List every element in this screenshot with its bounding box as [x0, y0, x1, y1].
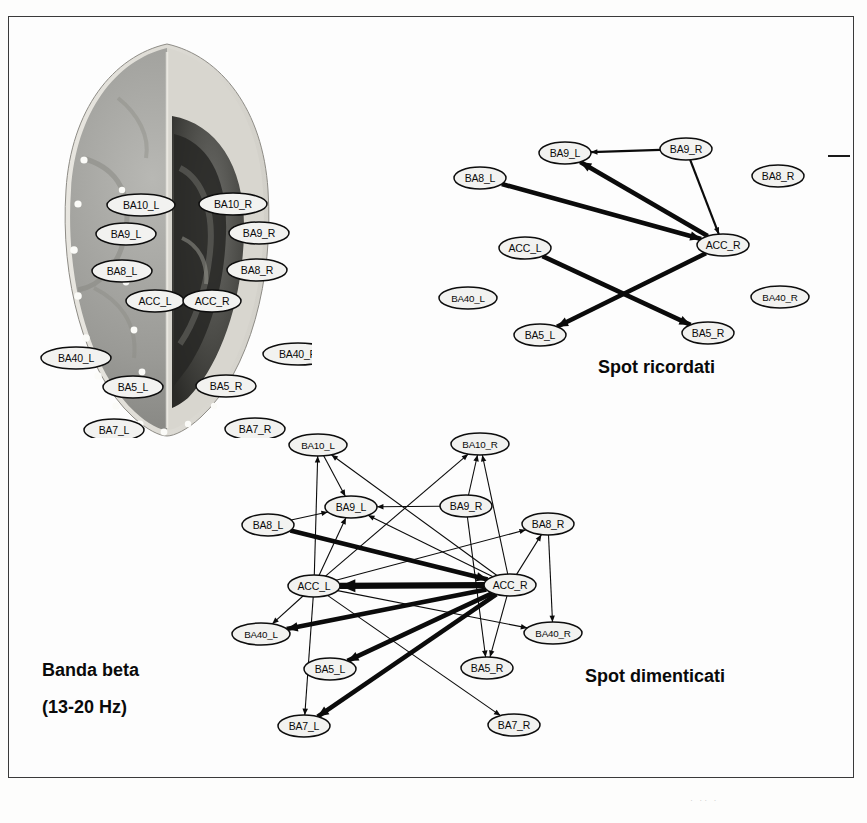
node-label: BA5_R [471, 662, 504, 674]
node-ACC_L[interactable]: ACC_L [288, 575, 340, 597]
brain-label-text: BA10_R [214, 198, 253, 210]
brain-label-BA10_L: BA10_L [107, 194, 175, 216]
node-label: BA5_L [315, 663, 346, 675]
brain-label-BA9_R: BA9_R [229, 222, 289, 244]
node-label: BA7_L [289, 720, 320, 732]
edge-ACC_R-to-BA5_L [557, 253, 706, 326]
node-ACC_R[interactable]: ACC_R [697, 234, 749, 256]
network-remembered: BA9_LBA9_RBA8_LBA8_RACC_LACC_RBA40_LBA40… [440, 125, 840, 360]
brain-label-BA40_R: BA40_R [263, 343, 312, 365]
edge-weight-legend-dash [828, 155, 850, 157]
brain-label-BA10_R: BA10_R [199, 193, 267, 215]
node-label: BA9_L [550, 147, 581, 159]
brain-label-ACC_L: ACC_L [126, 290, 184, 312]
edge-BA9_R-to-BA9_L [377, 506, 440, 507]
brain-label-text: ACC_L [139, 295, 172, 307]
node-BA5_L[interactable]: BA5_L [514, 324, 566, 346]
node-BA40_L[interactable]: BA40_L [439, 287, 497, 309]
node-BA7_L[interactable]: BA7_L [278, 715, 330, 737]
arrowhead-ACC_L-to-BA7_R [494, 710, 501, 716]
node-ACC_L[interactable]: ACC_L [499, 237, 551, 259]
edge-ACC_L-to-BA8_R [336, 530, 526, 580]
node-label: BA40_R [535, 628, 570, 639]
node-label: BA9_L [336, 501, 367, 513]
node-label: BA9_R [670, 143, 703, 155]
arrowhead-ACC_L-to-BA10_L [315, 456, 320, 463]
edge-ACC_L-to-BA5_R [543, 256, 691, 325]
node-label: BA40_L [451, 293, 485, 304]
node-BA9_L[interactable]: BA9_L [539, 142, 591, 164]
node-BA8_R[interactable]: BA8_R [752, 165, 804, 187]
edge-ACC_L-to-BA10_L [314, 456, 317, 575]
node-BA40_R[interactable]: BA40_R [524, 622, 582, 644]
node-label: BA40_L [244, 629, 278, 640]
brain-label-BA7_L: BA7_L [84, 419, 144, 438]
arrowhead-ACC_R-to-BA10_R [481, 455, 486, 462]
node-label: ACC_L [509, 242, 542, 254]
node-label: BA8_L [465, 172, 496, 184]
brain-label-BA9_L: BA9_L [96, 223, 156, 245]
brain-label-text: BA40_L [58, 352, 95, 364]
node-BA8_R[interactable]: BA8_R [522, 513, 574, 535]
edge-ACC_R-to-ACC_L [340, 585, 484, 586]
edge-ACC_R-to-BA7_L [318, 594, 497, 716]
node-BA40_L[interactable]: BA40_L [232, 623, 290, 645]
brain-label-BA8_L: BA8_L [92, 260, 152, 282]
arrowhead-BA8_R-to-BA40_R [550, 615, 555, 622]
node-BA10_R[interactable]: BA10_R [451, 433, 509, 455]
edge-BA8_R-to-BA40_R [549, 535, 553, 622]
arrowhead-ACC_R-to-BA5_R [489, 650, 494, 657]
brain-label-BA40_L: BA40_L [41, 347, 111, 369]
node-layer: BA9_LBA9_RBA8_LBA8_RACC_LACC_RBA40_LBA40… [439, 138, 809, 346]
node-BA5_R[interactable]: BA5_R [682, 322, 734, 344]
caption-spot-dimenticati: Spot dimenticati [585, 666, 725, 687]
brain-label-BA8_R: BA8_R [227, 259, 287, 281]
node-BA9_R[interactable]: BA9_R [660, 138, 712, 160]
arrowhead-ACC_R-to-BA10_L [331, 455, 338, 461]
node-BA9_R[interactable]: BA9_R [440, 495, 492, 517]
arrowhead-BA9_R-to-ACC_R [714, 227, 719, 234]
node-ACC_R[interactable]: ACC_R [484, 574, 536, 596]
node-BA8_L[interactable]: BA8_L [454, 167, 506, 189]
node-label: BA10_L [301, 440, 335, 451]
node-label: ACC_L [298, 580, 331, 592]
arrowhead-ACC_R-to-ACC_L [340, 579, 355, 592]
node-label: BA8_R [532, 518, 565, 530]
edge-BA8_L-to-ACC_R [502, 184, 701, 239]
node-BA8_L[interactable]: BA8_L [242, 514, 294, 536]
node-label: BA5_L [525, 329, 556, 341]
brain-label-text: BA7_L [99, 424, 130, 436]
brain-label-text: BA8_L [107, 265, 138, 277]
edge-BA10_L-to-BA9_L [324, 456, 346, 497]
node-label: BA8_R [762, 170, 795, 182]
node-label: BA10_R [462, 439, 497, 450]
caption-spot-ricordati: Spot ricordati [598, 357, 715, 378]
node-BA5_R[interactable]: BA5_R [461, 657, 513, 679]
node-label: ACC_R [493, 579, 528, 591]
brain-label-text: BA9_L [111, 228, 142, 240]
node-label: BA5_R [692, 327, 725, 339]
arrowhead-ACC_R-to-BA8_R [536, 535, 542, 542]
edge-BA9_R-to-BA9_L [591, 150, 660, 152]
node-label: BA9_R [450, 500, 483, 512]
scan-artifact-text: · ·· · [690, 795, 719, 805]
node-BA10_L[interactable]: BA10_L [289, 434, 347, 456]
edge-BA9_R-to-ACC_R [690, 160, 719, 234]
arrowhead-BA9_R-to-BA10_R [473, 455, 478, 462]
brain-label-text: BA10_L [123, 199, 160, 211]
brain-label-text: BA40_R [279, 348, 312, 360]
figure-canvas: BA10_L BA9_L BA8_L ACC_L BA40_L [0, 0, 867, 823]
arrowhead-BA9_R-to-BA9_L [591, 149, 598, 155]
arrowhead-ACC_L-to-BA7_L [303, 708, 309, 715]
node-BA5_L[interactable]: BA5_L [304, 658, 356, 680]
brain-label-text: BA9_R [243, 227, 276, 239]
node-BA9_L[interactable]: BA9_L [325, 496, 377, 518]
brain-label-BA5_R: BA5_R [196, 375, 256, 397]
arrowhead-BA9_R-to-BA9_L [377, 504, 384, 509]
arrowhead-BA9_R-to-BA5_R [482, 650, 488, 657]
network-forgotten: BA10_LBA10_RBA9_LBA9_RBA8_LBA8_RACC_LACC… [228, 425, 608, 755]
node-BA40_R[interactable]: BA40_R [751, 286, 809, 308]
node-BA7_R[interactable]: BA7_R [488, 714, 540, 736]
brain-surface-render: BA10_L BA9_L BA8_L ACC_L BA40_L [22, 38, 312, 438]
node-label: BA40_R [762, 292, 797, 303]
